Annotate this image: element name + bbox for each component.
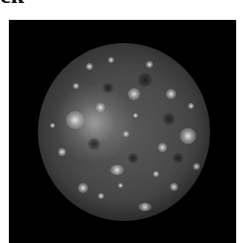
bright-crater	[178, 203, 183, 208]
cratered-moon	[38, 43, 210, 221]
page: ck	[0, 0, 242, 243]
clipped-heading-text: ck	[0, 0, 24, 7]
moon-photograph	[9, 20, 236, 243]
limb-shadow	[38, 43, 210, 221]
